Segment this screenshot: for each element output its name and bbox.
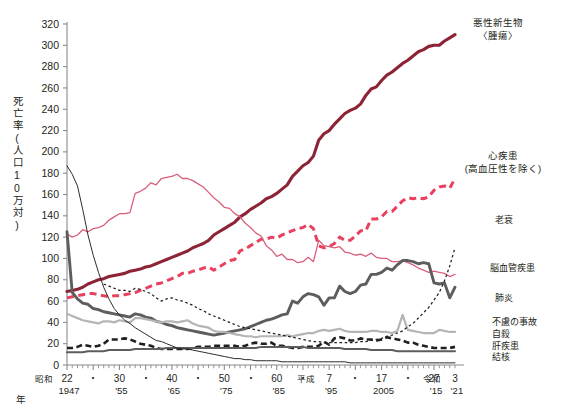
y-tick-label: 20 [47,337,59,349]
x-tick-label-jp: 3 [452,373,458,384]
x-tick-label-jp: 7 [326,373,332,384]
x-era-label: 昭和 [35,374,53,384]
x-tick-label-jp: 17 [376,373,388,384]
legend-sublabel-cancer: 〈腫瘍〉 [478,30,518,41]
y-tick-label: 80 [47,273,59,285]
x-tick-separator: ・ [350,373,360,384]
y-tick-label: 120 [41,231,59,243]
legend-label-tb: 結核 [492,351,510,362]
x-tick-separator: ・ [193,373,203,384]
x-tick-label-western: '15 [430,385,442,396]
legend-label-liver: 肝疾患 [492,340,519,351]
y-tick-label: 320 [41,18,59,30]
y-tick-label: 260 [41,82,59,94]
y-tick-label: 240 [41,103,59,115]
x-tick-label-western: '95 [325,385,337,396]
legend-label-heart: 心疾患 [488,150,518,161]
x-tick-label-jp: 60 [271,373,283,384]
y-tick-label: 140 [41,209,59,221]
legend-label-senility: 老衰 [495,214,513,225]
series-line-脳血管疾患 [67,174,455,276]
x-tick-label-western: 1947 [58,385,79,396]
series-line-肺炎 [67,232,455,335]
y-tick-label: 0 [53,359,59,371]
x-tick-label-jp: 22 [61,373,73,384]
x-tick-label-western: '65 [168,385,180,396]
x-tick-label-western: '85 [273,385,285,396]
y-tick-label: 100 [41,252,59,264]
x-era-label: 平成 [297,374,315,384]
y-tick-label: 200 [41,145,59,157]
series-line-心疾患(高血圧性を除く) [67,179,455,298]
y-axis: 0204060801001201401601802002202402602803… [41,18,67,371]
y-tick-label: 300 [41,39,59,51]
y-tick-label: 180 [41,167,59,179]
legend-label-suicide: 自殺 [492,328,510,339]
y-tick-label: 60 [47,295,59,307]
legend-label-accident: 不慮の事故 [492,316,537,327]
x-tick-label-western: '21 [451,385,463,396]
x-tick-separator: ・ [246,373,256,384]
x-axis [67,365,464,370]
series-line-悪性新生物〈腫瘍〉 [67,35,455,292]
x-tick-label-western: 2005 [373,385,394,396]
plot-area: 0204060801001201401601802002202402602803… [0,0,564,417]
legend-label-cerebro: 脳血管疾患 [490,262,535,273]
x-tick-label-jp: 50 [219,373,231,384]
chart-legend: 悪性新生物〈腫瘍〉心疾患(高血圧性を除く)老衰脳血管疾患肺炎不慮の事故自殺肝疾患… [465,17,541,362]
x-tick-separator: ・ [88,373,98,384]
y-tick-label: 40 [47,316,59,328]
legend-sublabel-heart: (高血圧性を除く) [465,163,541,174]
series-line-肝疾患 [67,347,455,352]
y-tick-label: 220 [41,124,59,136]
mortality-rate-chart: 死亡率(人口10万対) 年 02040608010012014016018020… [0,0,564,417]
y-tick-label: 160 [41,188,59,200]
x-tick-separator: ・ [141,373,151,384]
x-tick-label-western: '75 [220,385,232,396]
x-tick-label-jp: 40 [166,373,178,384]
x-tick-label-jp: 30 [114,373,126,384]
data-series-group [67,35,455,363]
x-tick-separator: ・ [403,373,413,384]
legend-label-pneumonia: 肺炎 [495,293,513,303]
x-axis-labels: 昭和221947・30'55・40'65・50'75・60'85・平成7'95・… [35,373,463,396]
x-tick-label-western: '55 [115,385,127,396]
legend-label-cancer: 悪性新生物 [473,17,523,28]
x-era-label: 令和 [423,374,441,384]
y-tick-label: 280 [41,60,59,72]
